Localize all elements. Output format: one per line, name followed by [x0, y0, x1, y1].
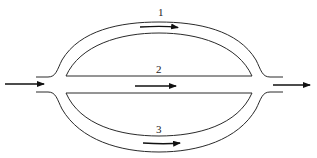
- path-2-label: 2: [156, 63, 162, 75]
- path-3-flow-arrow-icon: [143, 143, 180, 144]
- path-2-channel: [66, 76, 252, 93]
- path-1-label: 1: [158, 6, 164, 18]
- parallel-paths-diagram: 1 2 3: [0, 0, 317, 158]
- path-3-label: 3: [156, 123, 162, 135]
- path-1-flow-arrow-icon: [140, 26, 178, 27]
